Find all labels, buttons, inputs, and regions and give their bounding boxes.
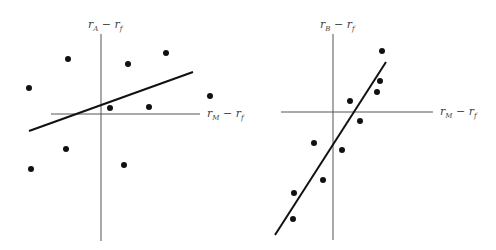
data-point — [320, 177, 326, 183]
data-point — [121, 162, 127, 168]
data-point — [291, 190, 297, 196]
panel-b-regression-line — [275, 62, 386, 235]
data-point — [207, 93, 213, 99]
data-point — [65, 56, 71, 62]
data-point — [146, 104, 152, 110]
panel-b-x-label: rM − rf — [440, 105, 478, 120]
data-point — [347, 98, 353, 104]
data-point — [107, 105, 113, 111]
panel-b-points — [290, 48, 385, 222]
panel-a-x-label: rM − rf — [207, 107, 245, 122]
data-point — [28, 166, 34, 172]
panel-b: rB − rf rM − rf — [275, 18, 478, 240]
data-point — [290, 216, 296, 222]
panel-a: rA − rf rM − rf — [26, 18, 245, 241]
panel-b-y-label: rB − rf — [320, 18, 356, 33]
data-point — [379, 48, 385, 54]
data-point — [311, 140, 317, 146]
data-point — [339, 147, 345, 153]
data-point — [163, 50, 169, 56]
data-point — [26, 85, 32, 91]
data-point — [377, 78, 383, 84]
data-point — [125, 61, 131, 67]
panel-a-regression-line — [29, 72, 193, 131]
data-point — [374, 89, 380, 95]
data-point — [357, 118, 363, 124]
diagram-canvas: rA − rf rM − rf rB − rf rM − rf — [0, 0, 496, 250]
panel-a-points — [26, 50, 213, 172]
panel-a-y-label: rA − rf — [88, 18, 124, 33]
data-point — [63, 146, 69, 152]
